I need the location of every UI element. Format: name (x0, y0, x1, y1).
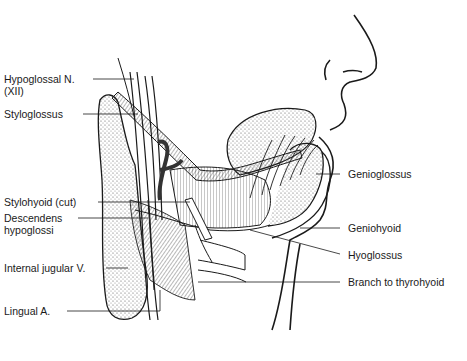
label-descendens-line2: hypoglossi (4, 224, 62, 236)
label-descendens-line1: Descendens (4, 212, 62, 224)
label-descendens-hypoglossi: Descendens hypoglossi (4, 212, 62, 236)
label-geniohyoid: Geniohyoid (348, 222, 401, 234)
hyoid-region (198, 240, 246, 282)
label-hypoglossal-line1: Hypoglossal N. (4, 73, 75, 85)
label-internal-jugular-vein: Internal jugular V. (4, 262, 85, 274)
label-hypoglossal-line2: (XII) (4, 85, 75, 97)
anatomy-diagram: Hypoglossal N. (XII) Styloglossus Styloh… (0, 0, 467, 361)
label-lingual-artery: Lingual A. (4, 305, 50, 317)
label-hyoglossus: Hyoglossus (348, 249, 402, 261)
anatomy-illustration (0, 0, 467, 361)
label-hypoglossal-nerve: Hypoglossal N. (XII) (4, 73, 75, 97)
label-styloglossus: Styloglossus (4, 108, 63, 120)
label-stylohyoid-cut: Stylohyoid (cut) (4, 196, 76, 208)
label-branch-to-thyrohyoid: Branch to thyrohyoid (348, 276, 444, 288)
label-genioglossus: Genioglossus (348, 168, 412, 180)
